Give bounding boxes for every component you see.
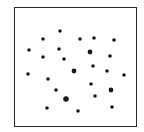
dot xyxy=(57,47,61,51)
dot xyxy=(63,96,69,102)
dot xyxy=(46,77,50,81)
dot xyxy=(92,36,96,40)
dot xyxy=(93,94,97,98)
dot xyxy=(105,69,109,73)
dot xyxy=(41,37,45,41)
dot xyxy=(45,106,49,110)
dot xyxy=(112,38,116,42)
dot xyxy=(62,57,66,61)
dot xyxy=(110,105,114,109)
dot xyxy=(76,109,80,113)
dot xyxy=(41,55,45,59)
dot xyxy=(108,54,112,58)
dot xyxy=(27,48,31,52)
dot xyxy=(109,88,114,93)
dot xyxy=(72,69,77,74)
dot xyxy=(122,73,126,77)
dot xyxy=(54,88,58,92)
dot xyxy=(26,72,30,76)
dot xyxy=(89,82,93,86)
dot xyxy=(91,64,95,68)
dot-scatter xyxy=(0,0,144,132)
dot xyxy=(78,37,82,41)
dot xyxy=(58,29,62,33)
dot xyxy=(88,50,93,55)
